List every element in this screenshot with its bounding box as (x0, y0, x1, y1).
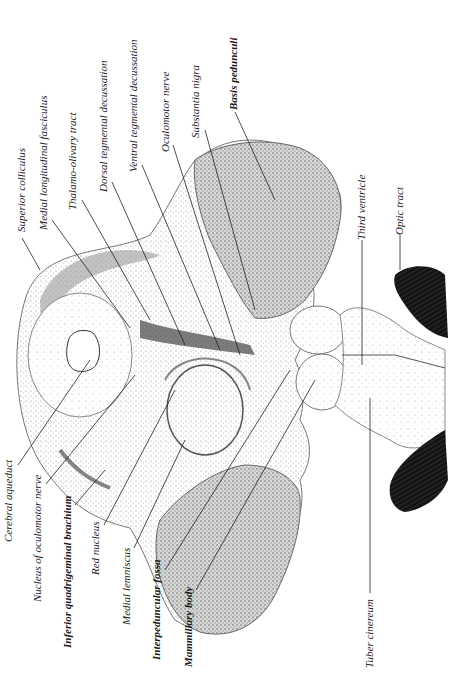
label-inferior-quadrigeminal-brachium: Inferior quadrigeminal brachium (62, 496, 73, 648)
label-optic-tract: Optic tract (394, 187, 405, 235)
label-ventral-tegmental-decussation: Ventral tegmental decussation (128, 39, 139, 172)
label-medial-lemniscus: Medial lemniscus (121, 548, 132, 625)
label-dorsal-tegmental-decussation: Dorsal tegmental decussation (98, 61, 109, 192)
label-red-nucleus: Red nucleus (90, 522, 101, 575)
label-basis-pedunculi: Basis pedunculi (228, 38, 239, 110)
label-tuber-cinereum: Tuber cinereum (364, 599, 375, 668)
label-medial-longitudinal-fasciculus: Medial longitudinal fasciculus (38, 96, 49, 230)
mammillary-body-upper (290, 306, 346, 354)
label-superior-colliculus: Superior colliculus (16, 148, 27, 232)
label-mammillary-body: Mammillary body (183, 587, 194, 667)
label-nucleus-of-oculomotor-nerve: Nucleus of oculomotor nerve (32, 475, 43, 602)
midbrain-section-figure: Superior colliculus Medial longitudinal … (0, 0, 459, 686)
label-cerebral-aqueduct: Cerebral aqueduct (3, 460, 14, 542)
label-interpeduncular-fossa: Interpeduncular fossa (151, 559, 162, 660)
label-thalamo-olivary-tract: Thalamo-olivary tract (67, 113, 78, 210)
label-third-ventricle: Third ventricle (356, 175, 367, 240)
cerebral-aqueduct (67, 330, 100, 371)
label-substantia-nigra: Substantia nigra (190, 65, 201, 138)
red-nucleus (167, 365, 243, 455)
label-oculomotor-nerve: Oculomotor nerve (160, 72, 171, 152)
